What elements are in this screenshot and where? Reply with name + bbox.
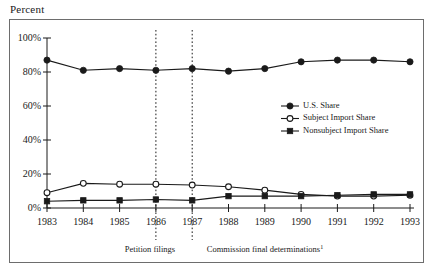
data-point xyxy=(117,198,122,203)
data-point xyxy=(189,66,195,72)
data-point xyxy=(153,67,159,73)
y-tick-label: 0% xyxy=(28,202,41,213)
legend-label: U.S. Share xyxy=(303,100,340,110)
x-tick-label: 1986 xyxy=(146,216,166,227)
data-point xyxy=(80,180,86,186)
legend-label: Subject Import Share xyxy=(303,112,375,122)
data-point xyxy=(371,192,376,197)
x-tick-label: 1990 xyxy=(291,216,311,227)
data-point xyxy=(225,68,231,74)
data-point xyxy=(371,57,377,63)
legend-marker xyxy=(287,128,292,133)
data-point xyxy=(334,57,340,63)
data-point xyxy=(44,199,49,204)
data-point xyxy=(335,193,340,198)
data-point xyxy=(262,66,268,72)
data-point xyxy=(189,182,195,188)
x-tick-label: 1984 xyxy=(73,216,93,227)
data-point xyxy=(117,66,123,72)
x-tick-label: 1989 xyxy=(255,216,275,227)
data-point xyxy=(44,57,50,63)
legend-marker xyxy=(287,103,293,109)
data-point xyxy=(117,181,123,187)
data-point xyxy=(44,190,50,196)
x-tick-label: 1983 xyxy=(37,216,57,227)
legend-marker xyxy=(287,116,293,122)
annotation-labels: Petition filingsCommission final determi… xyxy=(125,244,323,254)
data-point xyxy=(407,59,413,65)
y-tick-label: 20% xyxy=(23,168,41,179)
axis-lines xyxy=(47,38,414,208)
data-point xyxy=(262,187,268,193)
data-point xyxy=(407,192,412,197)
data-point xyxy=(262,193,267,198)
legend-label: Nonsubject Import Share xyxy=(303,125,389,135)
x-tick-label: 1991 xyxy=(327,216,347,227)
x-tick-label: 1988 xyxy=(219,216,239,227)
x-tick-label: 1985 xyxy=(110,216,130,227)
y-tick-label: 80% xyxy=(23,66,41,77)
chart-figure: Percent 0%20%40%60%80%100% 1983198419851… xyxy=(0,0,435,270)
annotation-label: Commission final determinations1 xyxy=(207,244,323,254)
data-point xyxy=(298,59,304,65)
x-tick-label: 1987 xyxy=(182,216,202,227)
x-tick-label: 1993 xyxy=(400,216,420,227)
data-point xyxy=(226,184,232,190)
data-point xyxy=(80,67,86,73)
data-point xyxy=(153,181,159,187)
data-point xyxy=(153,197,158,202)
x-tick-label: 1992 xyxy=(364,216,384,227)
data-point xyxy=(81,198,86,203)
data-point xyxy=(190,198,195,203)
x-axis-tick-labels: 1983198419851986198719881989199019911992… xyxy=(37,216,420,227)
y-tick-label: 60% xyxy=(23,100,41,111)
plot-canvas: 0%20%40%60%80%100% 198319841985198619871… xyxy=(0,0,435,270)
y-tick-label: 100% xyxy=(18,32,41,43)
y-tick-label: 40% xyxy=(23,134,41,145)
y-axis-tick-labels: 0%20%40%60%80%100% xyxy=(18,32,41,213)
data-point xyxy=(226,193,231,198)
annotation-label: Petition filings xyxy=(125,244,175,254)
data-point xyxy=(298,193,303,198)
chart-legend: U.S. ShareSubject Import ShareNonsubject… xyxy=(281,100,389,135)
